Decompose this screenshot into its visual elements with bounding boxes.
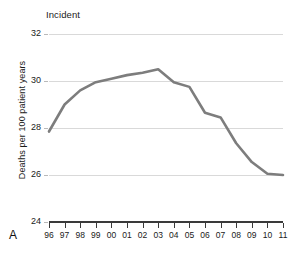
- panel-letter: A: [9, 228, 17, 242]
- x-tick-mark: [252, 223, 253, 228]
- x-tick-mark: [205, 223, 206, 228]
- y-tick-mark: [44, 81, 48, 82]
- chart-title: Incident: [46, 9, 80, 20]
- x-tick-mark: [65, 223, 66, 228]
- y-tick-label: 32: [21, 28, 41, 38]
- x-tick-mark: [49, 223, 50, 228]
- y-tick-mark: [44, 175, 48, 176]
- x-tick-mark: [189, 223, 190, 228]
- x-tick-mark: [111, 223, 112, 228]
- y-tick-mark: [44, 222, 48, 223]
- x-tick-mark: [158, 223, 159, 228]
- y-tick-label: 26: [21, 169, 41, 179]
- x-tick-mark: [283, 223, 284, 228]
- x-tick-mark: [127, 223, 128, 228]
- y-tick-mark: [44, 128, 48, 129]
- x-tick-label: 11: [274, 230, 292, 240]
- plot-area: [49, 34, 283, 222]
- y-tick-label: 30: [21, 75, 41, 85]
- x-tick-mark: [267, 223, 268, 228]
- x-tick-mark: [143, 223, 144, 228]
- figure-panel-a: Incident Deaths per 100 patient years A …: [0, 0, 292, 259]
- series-incident: [49, 34, 283, 222]
- x-tick-mark: [236, 223, 237, 228]
- y-tick-label: 28: [21, 122, 41, 132]
- y-tick-mark: [44, 34, 48, 35]
- x-tick-mark: [221, 223, 222, 228]
- x-axis-line: [49, 221, 283, 223]
- x-tick-mark: [80, 223, 81, 228]
- y-tick-label: 24: [21, 216, 41, 226]
- x-tick-mark: [174, 223, 175, 228]
- x-tick-mark: [96, 223, 97, 228]
